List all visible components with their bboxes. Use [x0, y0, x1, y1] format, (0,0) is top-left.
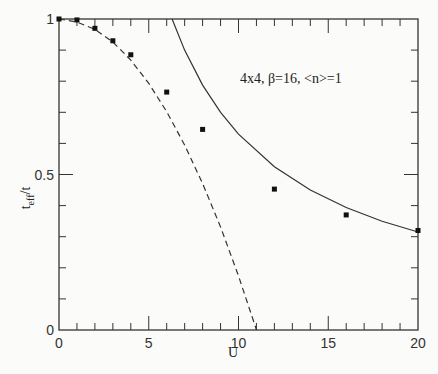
svg-text:teff/t: teff/t — [18, 187, 36, 210]
data-point-marker — [416, 228, 421, 233]
plot-frame — [59, 19, 418, 330]
data-point-marker — [74, 17, 79, 22]
solid-curve — [172, 19, 418, 232]
data-point-marker — [200, 127, 205, 132]
curves — [59, 19, 418, 330]
y-axis-label: teff/t — [18, 187, 36, 210]
data-point-marker — [92, 26, 97, 31]
y-tick-label: 1 — [46, 11, 54, 27]
chart: 0510152000.51 4x4, β=16, <n>=1 U teff/t — [0, 0, 438, 374]
x-axis-label: U — [228, 345, 238, 360]
tick-labels: 0510152000.51 — [35, 11, 426, 351]
x-tick-label: 5 — [145, 335, 153, 351]
y-axis-label-sub: eff — [25, 194, 36, 206]
data-point-marker — [164, 90, 169, 95]
y-tick-label: 0 — [46, 322, 54, 338]
data-point-marker — [344, 212, 349, 217]
dashed-curve — [59, 19, 257, 330]
chart-annotation: 4x4, β=16, <n>=1 — [240, 71, 342, 86]
y-axis-label-tail: /t — [18, 187, 33, 195]
y-tick-label: 0.5 — [35, 167, 55, 183]
data-point-marker — [272, 187, 277, 192]
data-point-marker — [57, 17, 62, 22]
x-tick-label: 0 — [55, 335, 63, 351]
data-point-marker — [110, 38, 115, 43]
data-points — [57, 17, 421, 233]
data-point-marker — [128, 52, 133, 57]
x-tick-label: 20 — [410, 335, 426, 351]
axis-ticks — [59, 19, 418, 330]
x-tick-label: 15 — [320, 335, 336, 351]
